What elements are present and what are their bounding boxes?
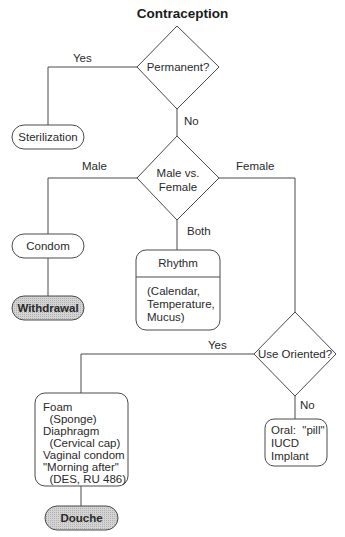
rhythm-line: Mucus) <box>147 311 185 324</box>
hormonal-line: Oral: "pill" <box>271 424 325 437</box>
edge-label-no: No <box>184 115 199 128</box>
permanent-label: Permanent? <box>137 61 219 74</box>
rhythm-line: Temperature, <box>147 298 215 311</box>
edge-label-female: Female <box>236 160 274 173</box>
use-oriented-label: Use Oriented? <box>254 348 336 361</box>
hormonal-line: IUCD <box>271 437 299 450</box>
withdrawal-label: Withdrawal <box>12 302 84 315</box>
edge-label-male: Male <box>82 160 107 173</box>
rhythm-line: (Calendar, <box>147 285 200 298</box>
rhythm-header: Rhythm <box>136 257 220 270</box>
condom-label: Condom <box>12 240 84 253</box>
page-title: Contraception <box>0 6 345 21</box>
barrier-line: (DES, RU 486) <box>43 473 126 486</box>
edge-female <box>219 178 295 312</box>
douche-label: Douche <box>45 512 118 525</box>
edge-male <box>48 178 137 234</box>
male-vs-female-line1: Male vs. <box>137 167 219 180</box>
edge-label-use-yes: Yes <box>208 339 227 352</box>
edge-use-yes <box>81 354 254 393</box>
edge-label-use-no: No <box>300 399 315 412</box>
edge-label-yes: Yes <box>73 52 92 65</box>
male-vs-female-line2: Female <box>137 181 219 194</box>
edge-label-both: Both <box>187 225 211 238</box>
hormonal-line: Implant <box>271 450 309 463</box>
sterilization-label: Sterilization <box>12 131 84 144</box>
edge-permanent-yes <box>48 67 137 125</box>
